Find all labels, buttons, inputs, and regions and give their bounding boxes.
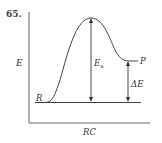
x-axis-label: RC xyxy=(82,127,96,137)
product-label: P xyxy=(139,56,146,66)
activation-energy-label: Ea xyxy=(93,58,104,69)
delta-e-label: ΔE xyxy=(130,79,144,89)
y-axis-label: E xyxy=(15,58,23,68)
activation-energy-arrow xyxy=(89,18,93,102)
delta-e-arrow xyxy=(126,61,130,102)
energy-diagram: 65. E RC R P Ea ΔE xyxy=(0,0,162,143)
reactant-label: R xyxy=(35,93,43,103)
problem-number: 65. xyxy=(6,9,22,19)
